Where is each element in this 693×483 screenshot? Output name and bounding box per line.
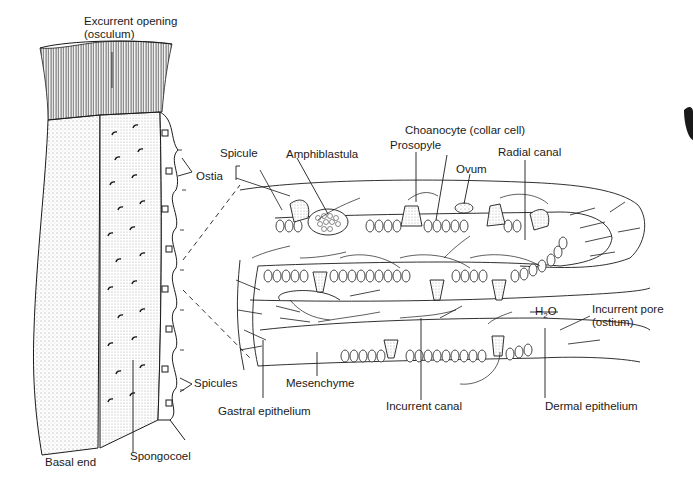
- label-ostia: Ostia: [196, 170, 223, 183]
- label-prosopyle: Prosopyle: [390, 139, 441, 152]
- radial-canal-chain: [158, 112, 178, 420]
- label-spicule: Spicule: [220, 147, 258, 160]
- zoom-guide-lines: [183, 185, 252, 360]
- label-incurrent-canal: Incurrent canal: [386, 400, 462, 413]
- label-dermal-epithelium: Dermal epithelium: [545, 400, 638, 413]
- label-h2o: H2O: [535, 305, 557, 322]
- label-amphiblastula: Amphiblastula: [286, 148, 358, 161]
- ovum: [455, 203, 473, 213]
- label-excurrent-opening: Excurrent opening (osculum): [84, 15, 177, 41]
- label-spicules: Spicules: [194, 377, 237, 390]
- label-spongocoel: Spongocoel: [130, 450, 191, 463]
- label-incurrent-pore: Incurrent pore (ostium): [592, 303, 664, 329]
- label-ovum: Ovum: [456, 163, 487, 176]
- label-mesenchyme: Mesenchyme: [286, 377, 354, 390]
- sponge-body: [33, 41, 186, 455]
- sponge-diagram: Excurrent opening (osculum) Ostia Spicul…: [0, 0, 693, 483]
- spicule-spikes: [236, 170, 640, 350]
- label-radial-canal: Radial canal: [498, 146, 561, 159]
- label-basal-end: Basal end: [45, 456, 96, 469]
- edge-mark: [684, 107, 693, 140]
- label-gastral-epithelium: Gastral epithelium: [218, 405, 311, 418]
- label-choanocyte: Choanocyte (collar cell): [405, 124, 525, 137]
